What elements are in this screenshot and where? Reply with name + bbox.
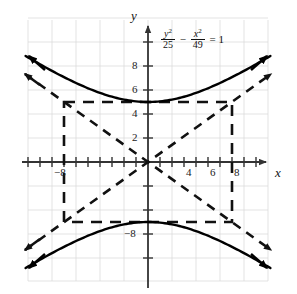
x-tick-label-minus-8: −8 — [54, 166, 66, 178]
y-axis-label: y — [131, 8, 137, 24]
equation-x-denominator: 49 — [191, 39, 205, 50]
y-tick-label-6: 6 — [132, 83, 138, 95]
y-tick-label-minus-8: −8 — [124, 227, 136, 239]
x-squared-over-49: x2 49 — [191, 28, 205, 50]
equation-y-denominator: 25 — [161, 39, 175, 50]
coordinate-plane — [0, 0, 297, 294]
equation-equals-one: = 1 — [209, 33, 223, 45]
x-tick-label-4: 4 — [186, 166, 192, 178]
hyperbola-figure: y2 25 − x2 49 = 1 y x 8 6 4 2 −8 −8 4 6 … — [0, 0, 297, 294]
x-tick-label-6: 6 — [210, 166, 216, 178]
x-tick-label-8: 8 — [234, 166, 240, 178]
x-axis-label: x — [275, 165, 281, 181]
y-tick-label-4: 4 — [132, 107, 138, 119]
equation-x-exponent: 2 — [198, 27, 202, 35]
y-tick-label-8: 8 — [132, 59, 138, 71]
equation-y-exponent: 2 — [168, 27, 172, 35]
equation-annotation: y2 25 − x2 49 = 1 — [160, 28, 225, 50]
y-squared-over-25: y2 25 — [161, 28, 175, 50]
equation-minus-sign: − — [180, 33, 186, 45]
y-tick-label-2: 2 — [132, 131, 138, 143]
